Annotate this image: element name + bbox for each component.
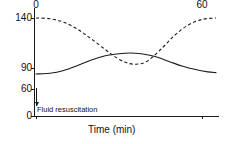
chart-curves xyxy=(0,0,226,144)
blood-pressure-curve xyxy=(36,53,216,74)
chart-screenshot: 140 90 60 0 0 60 Time (min) Fluid resusc… xyxy=(0,0,226,144)
heart-rate-curve xyxy=(36,18,216,64)
